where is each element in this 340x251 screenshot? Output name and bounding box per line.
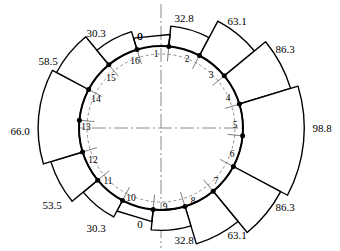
node-label-2: 2 (185, 55, 190, 65)
value-label-15: 0 (137, 31, 143, 42)
node-label-9: 9 (163, 203, 168, 213)
value-label-12: 66.0 (10, 126, 29, 137)
leader-line-node-2 (192, 57, 198, 68)
leader-line-node-6 (220, 159, 231, 165)
node-label-13: 13 (81, 123, 91, 133)
node-label-6: 6 (230, 150, 235, 160)
node-marker-3[interactable] (222, 73, 227, 78)
node-label-8: 8 (191, 197, 196, 207)
node-marker-5[interactable] (240, 133, 245, 138)
node-label-16: 16 (130, 57, 140, 67)
value-label-3: 63.1 (227, 16, 246, 27)
node-label-5: 5 (233, 121, 238, 131)
node-marker-6[interactable] (231, 164, 236, 169)
leader-line-node-4 (225, 105, 237, 109)
value-label-6: 86.3 (275, 202, 294, 213)
value-label-4: 86.3 (275, 44, 294, 55)
node-marker-1[interactable] (166, 44, 171, 49)
leader-line-node-12 (85, 148, 97, 152)
node-marker-7[interactable] (211, 189, 216, 194)
node-label-12: 12 (88, 156, 98, 166)
node-label-3: 3 (209, 71, 214, 81)
node-marker-15[interactable] (106, 62, 111, 67)
node-marker-2[interactable] (197, 53, 202, 58)
value-label-8: 32.8 (174, 235, 193, 246)
node-label-10: 10 (126, 194, 136, 204)
value-label-5: 98.8 (312, 123, 331, 134)
node-label-11: 11 (103, 177, 112, 187)
node-label-7: 7 (214, 177, 219, 187)
leader-line-node-9 (153, 195, 154, 208)
value-label-13: 58.5 (38, 56, 57, 67)
leader-line-node-7 (204, 180, 212, 190)
value-label-7: 63.1 (227, 230, 246, 241)
value-label-14: 30.3 (86, 28, 105, 39)
value-label-2: 32.8 (174, 13, 193, 24)
node-marker-8[interactable] (182, 204, 187, 209)
node-label-4: 4 (226, 94, 231, 104)
node-label-14: 14 (91, 95, 101, 105)
node-label-1: 1 (154, 50, 159, 60)
value-label-9: 0 (137, 219, 143, 230)
node-marker-14[interactable] (86, 87, 91, 92)
value-label-11: 53.5 (42, 200, 61, 211)
leader-line-node-5 (228, 134, 241, 135)
node-marker-4[interactable] (237, 102, 242, 107)
leader-line-node-1 (167, 48, 168, 61)
node-marker-9[interactable] (151, 207, 156, 212)
node-marker-11[interactable] (95, 178, 100, 183)
node-marker-16[interactable] (135, 47, 140, 52)
radial-segment-svg (0, 0, 340, 251)
value-label-10: 30.3 (86, 223, 105, 234)
diagram-canvas: 032.863.186.398.886.363.132.8030.353.566… (0, 0, 340, 251)
leader-line-node-8 (181, 192, 185, 204)
node-marker-10[interactable] (120, 198, 125, 203)
leader-line-node-3 (213, 77, 223, 85)
node-label-15: 15 (106, 74, 116, 84)
segment-group (38, 21, 304, 244)
node-marker-12[interactable] (80, 149, 85, 154)
